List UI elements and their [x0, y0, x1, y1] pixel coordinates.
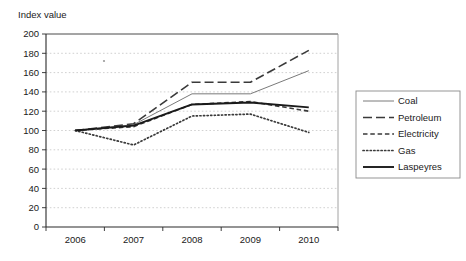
series-line-gas — [75, 114, 309, 145]
x-axis-tick-label: 2007 — [123, 234, 144, 245]
legend-label-electricity: Electricity — [398, 128, 439, 139]
y-axis-tick-label: 20 — [28, 202, 39, 213]
x-axis-group: 20062007200820092010 — [46, 227, 338, 245]
x-axis-tick-label: 2008 — [181, 234, 202, 245]
legend-label-coal: Coal — [398, 95, 418, 106]
y-axis-tick-label: 0 — [34, 221, 39, 232]
y-axis-tick-label: 200 — [23, 28, 39, 39]
y-axis-tick-label: 100 — [23, 125, 39, 136]
y-axis-tick-label: 60 — [28, 164, 39, 175]
gridlines-group: 020406080100120140160180200 — [23, 28, 338, 232]
y-axis-tick-label: 160 — [23, 67, 39, 78]
legend-label-petroleum: Petroleum — [398, 112, 441, 123]
y-axis-tick-label: 180 — [23, 48, 39, 59]
y-axis-tick-label: 40 — [28, 183, 39, 194]
y-axis-tick-label: 80 — [28, 144, 39, 155]
legend-label-gas: Gas — [398, 145, 416, 156]
legend-label-laspeyres: Laspeyres — [398, 161, 442, 172]
legend: CoalPetroleumElectricityGasLaspeyres — [356, 91, 460, 178]
y-axis-title: Index value — [18, 9, 67, 20]
y-axis-tick-label: 140 — [23, 86, 39, 97]
x-axis-tick-label: 2010 — [298, 234, 319, 245]
series-line-petroleum — [75, 50, 309, 130]
x-axis-tick-label: 2009 — [240, 234, 261, 245]
chart-container: Index value02040608010012014016018020020… — [0, 0, 466, 261]
scan-speck — [103, 60, 105, 62]
line-chart: Index value02040608010012014016018020020… — [0, 0, 466, 261]
y-axis-tick-label: 120 — [23, 106, 39, 117]
x-axis-tick-label: 2006 — [65, 234, 86, 245]
